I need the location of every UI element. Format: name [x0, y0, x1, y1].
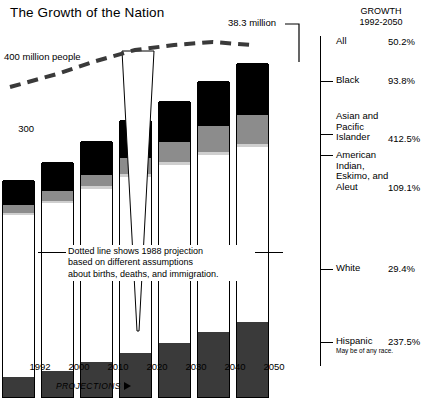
callout-38-3-million: 38.3 million — [228, 17, 276, 28]
legend-label-white: White — [336, 263, 360, 274]
legend-label-hispanic: Hispanic — [336, 336, 372, 347]
legend-pct-all: 50.2% — [388, 36, 415, 47]
segment-hispanic-1992 — [3, 377, 34, 397]
chart-root: The Growth of the Nation 400 million peo… — [0, 0, 432, 398]
legend-note-hispanic: May be of any race. — [336, 347, 393, 354]
x-tick-2050: 2050 — [251, 361, 297, 372]
annotation-text: Dotted line shows 1988 projection based … — [66, 245, 255, 281]
legend-label-all: All — [336, 36, 347, 47]
legend-pct-black: 93.8% — [388, 75, 415, 86]
legend-spine — [320, 36, 321, 366]
triangle-right-icon — [124, 382, 131, 390]
legend-header: GROWTH 1992-2050 — [336, 6, 426, 27]
legend-pct-hispanic: 237.5% — [388, 336, 420, 347]
projection-line-1988 — [0, 0, 275, 341]
plot-area — [0, 0, 275, 341]
legend-leader-white — [320, 269, 333, 270]
legend: GROWTH 1992-2050 All 50.2% Black 93.8% A… — [318, 6, 430, 386]
projections-caption: PROJECTIONS — [56, 381, 131, 391]
legend-label-amerindian: American Indian, Eskimo, and Aleut — [336, 150, 388, 192]
legend-pct-amerindian: 109.1% — [388, 182, 420, 193]
legend-leader-black — [320, 81, 333, 82]
legend-label-black: Black — [336, 75, 359, 86]
legend-leader-asian — [320, 134, 333, 135]
legend-pct-asian: 412.5% — [388, 133, 420, 144]
legend-label-asian: Asian and Pacific Islander — [336, 111, 378, 143]
legend-leader-amerindian — [320, 155, 333, 156]
legend-pct-white: 29.4% — [388, 263, 415, 274]
projections-label: PROJECTIONS — [56, 381, 121, 391]
legend-leader-hispanic — [320, 342, 333, 343]
